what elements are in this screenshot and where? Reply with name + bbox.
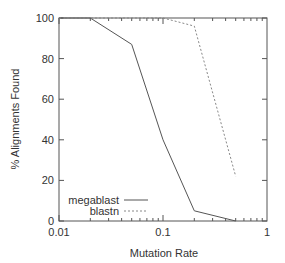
series-megablast [59, 18, 236, 221]
x-tick-label: 0.01 [48, 226, 69, 238]
y-tick-label: 40 [42, 134, 54, 146]
data-series [59, 18, 236, 221]
legend-label-blastn: blastn [90, 205, 119, 217]
line-chart: 0204060801000.010.11 megablastblastn Mut… [0, 0, 285, 263]
x-tick-label: 0.1 [155, 226, 170, 238]
y-tick-label: 60 [42, 93, 54, 105]
plot-frame [59, 18, 267, 221]
y-tick-label: 100 [36, 12, 54, 24]
x-axis-title: Mutation Rate [130, 247, 198, 259]
y-axis-title: % Alignments Found [9, 69, 21, 170]
x-tick-label: 1 [264, 226, 270, 238]
y-tick-label: 20 [42, 174, 54, 186]
y-tick-label: 80 [42, 53, 54, 65]
series-blastn [59, 18, 236, 176]
legend: megablastblastn [68, 194, 148, 217]
